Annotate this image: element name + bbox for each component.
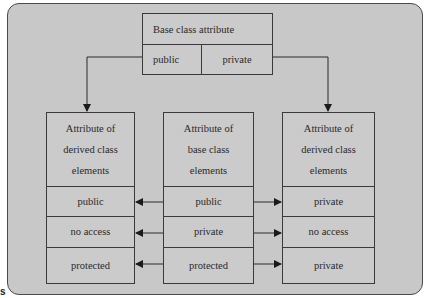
corner-label: s [0, 286, 6, 297]
arrow-public-to-left [87, 57, 142, 111]
connector-arrows [0, 0, 427, 298]
arrow-private-to-right [273, 57, 328, 111]
